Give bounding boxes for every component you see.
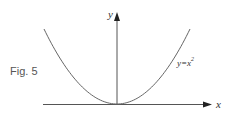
figure-label: Fig. 5 xyxy=(10,65,38,77)
x-axis-label: x xyxy=(215,98,221,110)
curve-label: y=x2 xyxy=(176,56,194,68)
curve-label-exponent: 2 xyxy=(191,56,194,62)
curve-label-base: y=x xyxy=(176,58,191,68)
chart: Fig. 5 x y y=x2 xyxy=(0,0,231,132)
y-axis-arrow xyxy=(114,12,120,21)
figure: Fig. 5 x y y=x2 xyxy=(0,0,231,132)
y-axis-label: y xyxy=(107,8,113,20)
x-axis-arrow xyxy=(203,102,212,108)
